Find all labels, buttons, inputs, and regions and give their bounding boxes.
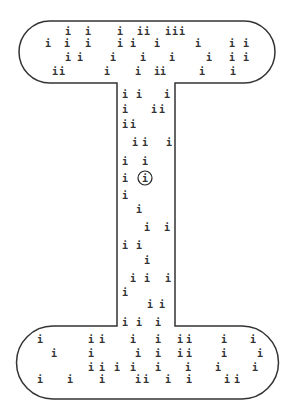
glyph-i: i (165, 26, 171, 37)
glyph-i: i (130, 273, 136, 284)
glyph-i: i (164, 89, 170, 100)
glyph-i: i (177, 334, 183, 345)
glyph-i: i (169, 52, 175, 63)
glyph-i: i (122, 190, 128, 201)
glyph-i: i (229, 52, 235, 63)
glyph-i: i (136, 89, 142, 100)
glyph-i: i (122, 104, 128, 115)
glyph-i: i (136, 204, 142, 215)
glyph-i: i (59, 66, 65, 77)
glyph-i: i (140, 52, 146, 63)
glyph-i: i (51, 348, 57, 359)
glyph-i: i (243, 38, 249, 49)
glyph-i: i (243, 52, 249, 63)
glyph-i: i (186, 334, 192, 345)
glyph-i: i (117, 38, 123, 49)
glyph-i: i (144, 222, 150, 233)
glyph-i: i (37, 374, 43, 385)
glyph-i: i (151, 104, 157, 115)
glyph-i: i (67, 374, 73, 385)
glyph-i: i (195, 38, 201, 49)
glyph-i: i (45, 38, 51, 49)
glyph-i: i (130, 334, 136, 345)
glyph-i: i (65, 52, 71, 63)
glyph-i: i (159, 104, 165, 115)
glyph-i: i (99, 362, 105, 373)
glyph-i: i (122, 287, 128, 298)
glyph-i: i (85, 38, 91, 49)
glyph-i: i (155, 348, 161, 359)
glyph-i: i (250, 334, 256, 345)
glyph-i: i (132, 137, 138, 148)
glyph-i: i (135, 348, 141, 359)
glyph-i: i (122, 240, 128, 251)
glyph-i: i (142, 137, 148, 148)
glyph-i: i (155, 317, 161, 328)
glyph-i: i (136, 240, 142, 251)
i-beam-outline (16, 21, 278, 399)
glyph-i: i (159, 299, 165, 310)
glyph-i: i (122, 119, 128, 130)
glyph-i: i (221, 334, 227, 345)
glyph-i: i (165, 374, 171, 385)
glyph-i: i (143, 374, 149, 385)
glyph-i: i (85, 26, 91, 37)
glyph-i: i (77, 52, 83, 63)
glyph-i: i (230, 66, 236, 77)
glyph-i: i (257, 348, 263, 359)
glyph-field: iiiiiiiiiiiiiiiiiiiiiiiiiiiiiiiiiiiiiiii… (37, 26, 263, 385)
glyph-i: i (135, 66, 141, 77)
glyph-i: i (122, 173, 128, 184)
glyph-i: i (130, 38, 136, 49)
glyph-i: i (130, 119, 136, 130)
glyph-i: i (186, 374, 192, 385)
glyph-i: i (88, 348, 94, 359)
glyph-i: i (117, 26, 123, 37)
glyph-i: i (144, 273, 150, 284)
glyph-i: i (130, 362, 136, 373)
glyph-i: i (179, 26, 185, 37)
glyph-i: i (172, 26, 178, 37)
glyph-i: i (142, 173, 148, 184)
glyph-i: i (147, 299, 153, 310)
glyph-i: i (185, 362, 191, 373)
glyph-i: i (165, 273, 171, 284)
glyph-i: i (99, 334, 105, 345)
glyph-i: i (122, 156, 128, 167)
glyph-i: i (229, 38, 235, 49)
puzzle-canvas: iiiiiiiiiiiiiiiiiiiiiiiiiiiiiiiiiiiiiiii… (0, 0, 289, 410)
glyph-i: i (199, 66, 205, 77)
glyph-i: i (252, 362, 258, 373)
glyph-i: i (114, 362, 120, 373)
glyph-i: i (88, 334, 94, 345)
glyph-i: i (166, 137, 172, 148)
glyph-i: i (65, 26, 71, 37)
glyph-i: i (110, 52, 116, 63)
glyph-i: i (64, 38, 70, 49)
glyph-i: i (144, 255, 150, 266)
glyph-i: i (234, 374, 240, 385)
glyph-i: i (122, 317, 128, 328)
glyph-i: i (154, 38, 160, 49)
glyph-i: i (186, 348, 192, 359)
glyph-i: i (137, 26, 143, 37)
glyph-i: i (155, 334, 161, 345)
glyph-i: i (160, 66, 166, 77)
glyph-i: i (122, 89, 128, 100)
glyph-i: i (88, 362, 94, 373)
glyph-i: i (221, 348, 227, 359)
glyph-i: i (224, 374, 230, 385)
glyph-i: i (215, 362, 221, 373)
glyph-i: i (164, 222, 170, 233)
glyph-i: i (142, 156, 148, 167)
glyph-i: i (136, 317, 142, 328)
glyph-i: i (99, 374, 105, 385)
glyph-i: i (37, 334, 43, 345)
glyph-i: i (104, 66, 110, 77)
glyph-i: i (177, 348, 183, 359)
glyph-i: i (206, 52, 212, 63)
glyph-i: i (155, 362, 161, 373)
glyph-i: i (135, 374, 141, 385)
glyph-i: i (52, 66, 58, 77)
glyph-i: i (144, 26, 150, 37)
